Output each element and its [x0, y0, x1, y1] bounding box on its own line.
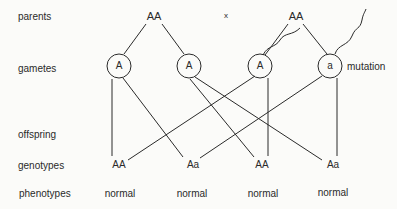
- cross-diagram-lines: [0, 0, 397, 209]
- mutation-wave-2: [335, 9, 366, 54]
- line-g3-AA1: [128, 76, 255, 160]
- phenotype-1: normal: [105, 189, 136, 199]
- parent-left-genotype: AA: [147, 11, 162, 22]
- line-g1-Aa2: [123, 78, 183, 157]
- gamete-1-allele: A: [116, 61, 123, 71]
- phenotype-3: normal: [248, 189, 279, 199]
- genotype-3: AA: [255, 160, 268, 170]
- genotype-1: AA: [112, 160, 125, 170]
- line-parent2-gamete4: [303, 24, 327, 54]
- gamete-3-allele: A: [257, 61, 264, 71]
- genotype-2: Aa: [187, 160, 199, 170]
- gamete-2-allele: A: [186, 61, 193, 71]
- line-parent1-gamete2: [162, 24, 184, 54]
- phenotype-4: normal: [318, 188, 349, 198]
- cross-symbol: x: [224, 12, 228, 20]
- line-g2-AA3: [190, 79, 254, 157]
- genotype-4: Aa: [327, 160, 339, 170]
- phenotype-2: normal: [177, 189, 208, 199]
- line-parent2-gamete3: [265, 24, 288, 55]
- gamete-4-allele: a: [327, 61, 333, 71]
- row-label-gametes: gametes: [18, 64, 56, 74]
- parent-right-genotype: AA: [289, 11, 304, 22]
- line-g4-Aa2: [200, 76, 322, 158]
- mutation-label: mutation: [347, 62, 385, 72]
- row-label-phenotypes: phenotypes: [19, 189, 71, 199]
- row-label-genotypes: genotypes: [18, 161, 64, 171]
- row-label-offspring: offspring: [18, 130, 56, 140]
- line-parent1-gamete1: [124, 24, 146, 54]
- row-label-parents: parents: [18, 12, 51, 22]
